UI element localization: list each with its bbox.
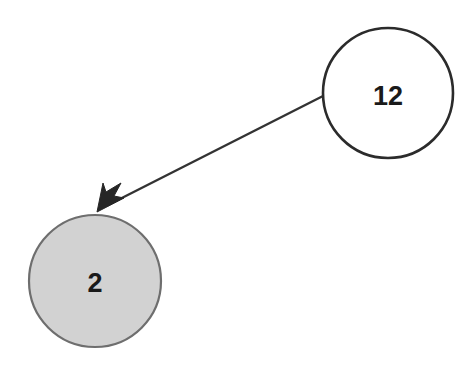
edge-arrowhead <box>97 183 124 212</box>
diagram-canvas: 2 12 <box>0 0 473 377</box>
edge-line <box>108 96 323 205</box>
node-12[interactable]: 12 <box>323 28 453 158</box>
graph-svg: 2 12 <box>0 0 473 377</box>
edge-12-to-2[interactable] <box>97 96 323 212</box>
node-2-label: 2 <box>87 268 102 298</box>
node-12-label: 12 <box>373 81 403 111</box>
node-2[interactable]: 2 <box>29 215 161 347</box>
